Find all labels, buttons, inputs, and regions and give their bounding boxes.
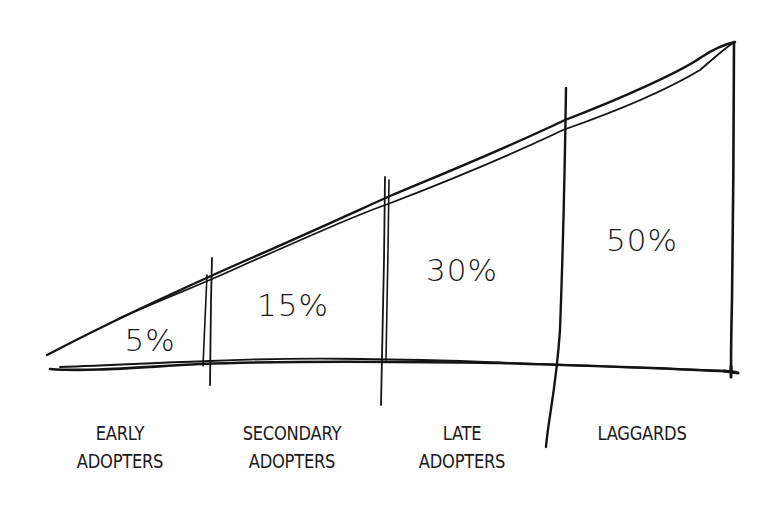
segment-percent-secondary-adopters: 15% <box>257 290 329 321</box>
divider-2 <box>381 177 389 405</box>
category-label-late-adopters: LATE ADOPTERS <box>419 419 505 475</box>
segment-percent-late-adopters: 30% <box>426 255 498 286</box>
category-label-line1: SECONDARY <box>243 419 342 447</box>
category-label-laggards: LAGGARDS <box>597 419 686 447</box>
category-label-line2: ADOPTERS <box>77 447 163 475</box>
category-label-line1: LAGGARDS <box>597 419 686 447</box>
segment-percent-laggards: 50% <box>606 225 678 256</box>
category-label-early-adopters: EARLY ADOPTERS <box>77 419 163 475</box>
hypotenuse <box>47 42 735 355</box>
category-label-line1: LATE <box>419 419 505 447</box>
category-label-line2: ADOPTERS <box>243 447 342 475</box>
divider-1 <box>203 258 212 385</box>
right-edge <box>724 42 738 377</box>
category-label-line2: ADOPTERS <box>419 447 505 475</box>
category-label-secondary-adopters: SECONDARY ADOPTERS <box>243 419 342 475</box>
segment-percent-early-adopters: 5% <box>124 325 175 356</box>
baseline <box>50 359 736 372</box>
category-label-line1: EARLY <box>77 419 163 447</box>
divider-3 <box>546 88 566 447</box>
